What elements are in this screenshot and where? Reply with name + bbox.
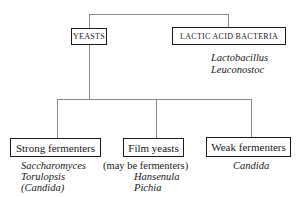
- strong-example-torulopsis: Torulopsis: [21, 171, 65, 183]
- subgroup-connector: [57, 99, 252, 100]
- lactic-acid-bacteria-box: LACTIC ACID BACTERIA: [172, 27, 286, 45]
- strong-fermenters-box: Strong fermenters: [10, 138, 101, 157]
- lab-example-lactobacillus: Lactobacillus: [211, 52, 268, 64]
- weak-fermenters-box: Weak fermenters: [206, 137, 291, 157]
- yeasts-up-connector: [89, 14, 90, 28]
- lab-up-connector: [228, 14, 229, 27]
- film-example-hansenula: Hansenula: [134, 171, 180, 183]
- strong-example-candida: (Candida): [21, 182, 64, 194]
- top-connector: [89, 14, 229, 15]
- film-connector: [156, 99, 157, 138]
- weak-connector: [251, 99, 252, 137]
- weak-example-candida: Candida: [233, 160, 269, 172]
- yeasts-down-connector: [89, 44, 90, 99]
- strong-connector: [57, 99, 58, 138]
- lab-example-leuconostoc: Leuconostoc: [211, 64, 264, 76]
- film-yeasts-box: Film yeasts: [123, 138, 184, 157]
- film-example-pichia: Pichia: [134, 182, 161, 194]
- yeasts-box: YEASTS: [71, 28, 107, 45]
- film-yeasts-note: (may be fermenters): [103, 160, 188, 172]
- strong-example-saccharomyces: Saccharomyces: [21, 160, 86, 172]
